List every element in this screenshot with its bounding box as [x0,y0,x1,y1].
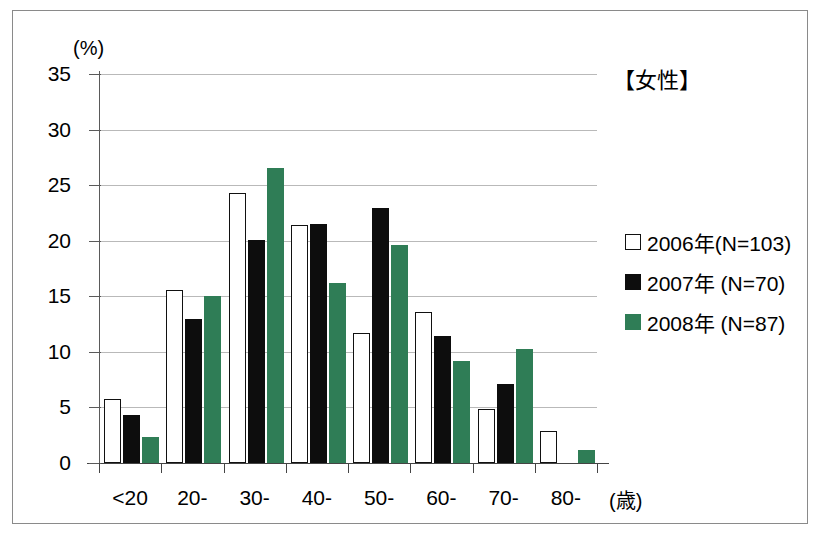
x-axis-tick [410,463,411,473]
chart-title: 【女性】 [613,69,701,93]
bar [291,225,308,463]
y-axis-tick-label: 15 [27,285,71,306]
y-axis-tick-label: 35 [27,63,71,84]
bar [415,312,432,463]
x-axis-tick [535,463,536,473]
legend-label: 2007年 (N=70) [647,267,785,297]
bar-group [478,74,533,463]
y-axis-tick-label: 20 [27,230,71,251]
bar-group [291,74,346,463]
bar-group [353,74,408,463]
x-axis-tick [473,463,474,473]
legend-swatch-filled-black-square [625,274,641,290]
bar [453,361,470,463]
bar [248,240,265,463]
legend-item: 2007年 (N=70) [625,262,791,302]
bar [434,336,451,463]
x-axis-tick [597,463,598,473]
bar [329,283,346,463]
bar [204,296,221,463]
x-axis-tick [161,463,162,473]
x-axis-tick [224,463,225,473]
y-axis-tick-label: 30 [27,119,71,140]
plot-area [99,74,597,463]
bar [391,245,408,463]
x-axis-tick-label: 80- [526,486,606,509]
bar [578,450,595,463]
bar [267,168,284,463]
x-axis-tick [286,463,287,473]
chart-legend: 2006年(N=103)2007年 (N=70)2008年 (N=87) [625,222,791,342]
legend-label: 2008年 (N=87) [647,307,785,337]
y-axis-tick-label: 10 [27,341,71,362]
x-axis-unit-label: (歳) [609,490,642,512]
y-axis-tick-label: 0 [27,452,71,473]
legend-swatch-filled-green-square [625,314,641,330]
bar [185,319,202,463]
bar [353,333,370,463]
y-axis-tick-label: 25 [27,174,71,195]
bar-group [166,74,221,463]
y-axis-tick-label: 5 [27,396,71,417]
bar [104,399,121,463]
bar-group [415,74,470,463]
legend-label: 2006年(N=103) [647,227,791,257]
chart-frame: 【女性】 (%) (歳) 05101520253035 <2020-30-40-… [12,10,808,524]
x-axis-tick [348,463,349,473]
bar [478,409,495,463]
x-axis-tick [99,463,100,473]
bar-group [540,74,595,463]
bar [142,437,159,463]
legend-item: 2006年(N=103) [625,222,791,262]
y-axis-unit-label: (%) [73,38,104,58]
bar-group [104,74,159,463]
bar [516,349,533,463]
bar [372,208,389,463]
bar [229,193,246,463]
bar-group [229,74,284,463]
bar [497,384,514,463]
legend-swatch-open-square [625,234,641,250]
legend-item: 2008年 (N=87) [625,302,791,342]
bar [123,415,140,463]
bar [310,224,327,463]
bar [540,431,557,463]
bar [166,290,183,463]
